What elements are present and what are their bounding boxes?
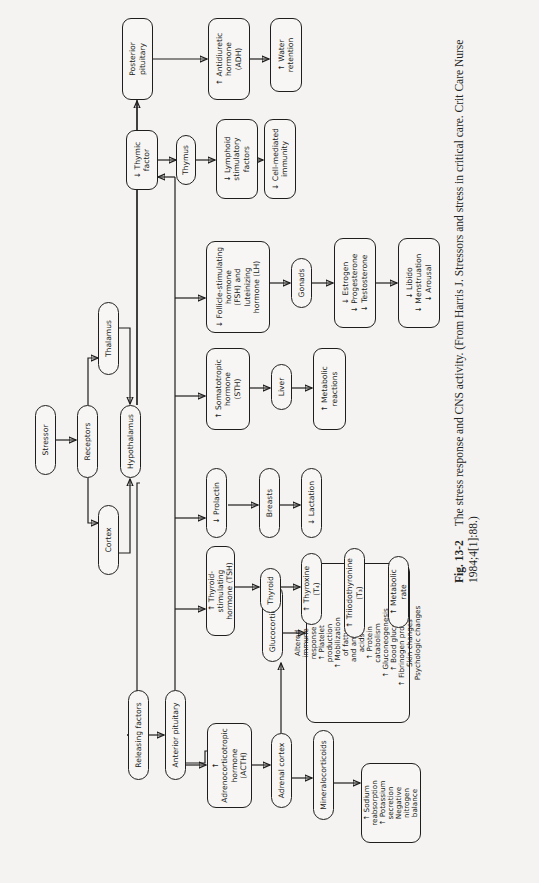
node-adrenal-cortex: Adrenal cortex — [271, 733, 292, 808]
node-stressor: Stressor — [35, 405, 56, 475]
node-anterior-pituitary: Anterior pituitary — [165, 690, 186, 780]
node-tsh: ↑ Thyroid-stimulating hormone (TSH) — [206, 546, 235, 636]
node-cortex: Cortex — [98, 505, 119, 575]
node-water-retention: ↑ Water retention — [270, 18, 302, 92]
node-breasts: Breasts — [259, 468, 280, 538]
node-lymphoid-factors: ↓ Lymphoid stimulatory factors — [216, 119, 258, 199]
node-thymus: Thymus — [176, 135, 196, 185]
node-thalamus: Thalamus — [98, 302, 119, 375]
node-sex-hormones: ↓ Estrogen ↓ Progesterone ↓ Testosterone — [334, 238, 376, 328]
node-sth: ↑ Somatotropic hormone (STH) — [206, 348, 250, 430]
figure-label: Fig. 13-2 — [453, 540, 465, 583]
node-acth: ↑ Adrenocorticotropic hormone (ACTH) — [207, 723, 252, 808]
node-receptors: Receptors — [77, 405, 98, 478]
node-fsh-lh: ↓ Follicle-stimulating hormone (FSH) and… — [206, 241, 270, 333]
node-adh: ↑ Antidiuretic hormone (ADH) — [208, 18, 250, 100]
node-posterior-pituitary: Posterior pituitary — [122, 18, 153, 100]
node-sexual-effects: ↓ Libido ↓ Menstruation ↓ Arousal — [398, 238, 440, 328]
node-lactation: ↓ Lactation — [301, 468, 322, 538]
node-thymic-factor: ↓ Thymic factor — [126, 130, 158, 190]
node-hypothalamus: Hypothalamus — [120, 405, 141, 478]
figure-caption-text: The stress response and CNS activity. (F… — [453, 40, 479, 583]
node-mineralocorticoid-effects: ↑ Sodium reabsorption ↑ Potassium secret… — [361, 763, 421, 843]
node-prolactin: ↓ Prolactin — [206, 468, 227, 538]
figure-caption: Fig. 13-2The stress response and CNS act… — [452, 23, 481, 583]
node-liver: Liver — [271, 364, 292, 410]
node-mineralocorticoids: Mineralocorticoids — [313, 730, 334, 820]
node-thyroid: Thyroid — [260, 568, 281, 613]
node-thyroxine: ↑ Thyroxine (T₄) — [301, 553, 322, 625]
node-releasing-factors: Releasing factors — [128, 690, 149, 780]
stress-response-diagram: Stressor Receptors Cortex Thalamus Hypot… — [0, 0, 539, 883]
node-metabolic-reactions: ↑ Metabolic reactions — [313, 348, 346, 430]
node-metabolic-rate: ↑ Metabolic rate — [388, 556, 409, 628]
node-gonads: Gonads — [291, 258, 312, 308]
node-cell-mediated-immunity: ↓ Cell-mediated immunity — [264, 119, 296, 199]
node-triiodothyronine: ↑ Triiodothyronine (T₃) — [344, 548, 365, 638]
